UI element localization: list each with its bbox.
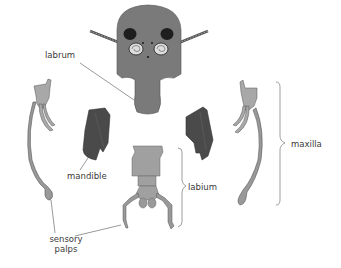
left-ocellus [129, 43, 143, 55]
left-labial-palp [123, 193, 139, 228]
right-maxillary-palp [238, 108, 262, 205]
label-sensory-palps-line2: palps [46, 244, 86, 254]
head-capsule [117, 5, 181, 114]
label-labium: labium [188, 182, 217, 192]
left-eye-dark [124, 28, 137, 40]
mouthparts-diagram [0, 0, 341, 268]
left-maxilla [28, 79, 55, 200]
right-mandible [186, 107, 213, 160]
palps-leader-line-left [51, 200, 55, 233]
labium [123, 146, 174, 229]
head [90, 5, 208, 114]
label-mandible: mandible [67, 171, 107, 181]
right-labial-palp [156, 193, 174, 229]
label-labrum: labrum [45, 50, 75, 60]
right-eye-dark [161, 28, 174, 40]
mandible-leader-line [80, 158, 88, 170]
right-ocellus [154, 43, 168, 55]
label-maxilla: maxilla [291, 139, 322, 149]
right-maxilla [233, 80, 262, 205]
label-sensory-palps: sensory palps [46, 234, 86, 254]
label-sensory-palps-line1: sensory [46, 234, 86, 244]
labium-prementum [132, 146, 163, 176]
labium-brace [178, 148, 186, 227]
maxilla-brace [276, 82, 285, 205]
left-mandible [83, 108, 110, 160]
